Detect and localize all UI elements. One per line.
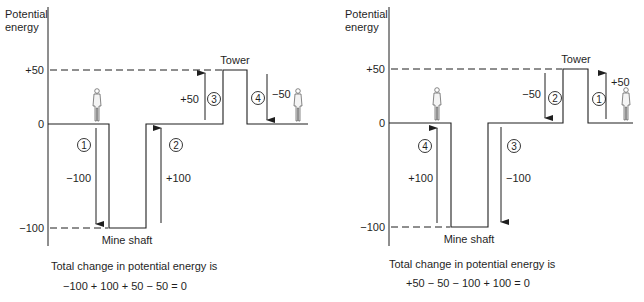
mine-shaft-label: Mine shaft (444, 233, 495, 245)
person-icon (622, 88, 630, 120)
tower-label: Tower (220, 54, 250, 66)
step-1-value: +50 (611, 76, 630, 88)
mine-shaft-label: Mine shaft (102, 234, 153, 246)
step-2-number: 2 (173, 140, 179, 151)
person-icon (93, 89, 101, 121)
tick-zero: 0 (38, 118, 44, 130)
y-axis-label: energy (5, 21, 39, 33)
tick-minus100: −100 (19, 222, 44, 234)
potential-energy-diagram: Potential energy +50 0 −100 Tower Mine s… (0, 0, 644, 302)
step-3-value: −100 (506, 172, 531, 184)
right-panel: Potential energy +50 0 −100 Tower Mine s… (345, 7, 633, 289)
step-3-number: 3 (511, 141, 517, 152)
step-1-value: −100 (66, 172, 91, 184)
step-2-number: 2 (552, 93, 558, 104)
caption-line-1: Total change in potential energy is (389, 258, 556, 270)
step-1-number: 1 (81, 140, 87, 151)
tick-minus100: −100 (360, 221, 385, 233)
tick-zero: 0 (379, 117, 385, 129)
tick-plus50: +50 (366, 63, 385, 75)
step-2-value: +100 (166, 172, 191, 184)
person-icon (294, 89, 302, 121)
left-panel: Potential energy +50 0 −100 Tower Mine s… (5, 7, 308, 292)
step-1-number: 1 (596, 94, 602, 105)
step-3-value: +50 (180, 93, 199, 105)
caption-equation: −100 + 100 + 50 − 50 = 0 (63, 280, 187, 292)
caption-equation: +50 − 50 − 100 + 100 = 0 (406, 277, 530, 289)
y-axis-label: Potential (5, 8, 48, 20)
y-axis-label: energy (345, 21, 379, 33)
tower-label: Tower (561, 53, 591, 65)
step-4-value: +100 (408, 172, 433, 184)
step-3-number: 3 (211, 94, 217, 105)
caption-line-1: Total change in potential energy is (51, 260, 218, 272)
tick-plus50: +50 (25, 64, 44, 76)
step-4-number: 4 (255, 93, 261, 104)
step-4-number: 4 (422, 141, 428, 152)
y-axis-label: Potential (345, 8, 388, 20)
person-icon (433, 88, 441, 120)
step-2-value: −50 (522, 88, 541, 100)
step-4-value: −50 (272, 88, 291, 100)
